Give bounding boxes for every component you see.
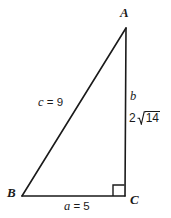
triangle-figure: A B C c = 9 a = 5 b 214 xyxy=(0,0,171,218)
vertex-label-b: B xyxy=(7,186,16,199)
vertex-label-a: A xyxy=(120,6,129,19)
side-c-value: 9 xyxy=(57,96,63,108)
side-a-equals: = xyxy=(70,200,83,212)
radical-expression: 14 xyxy=(136,111,160,125)
vertex-label-c: C xyxy=(130,193,139,206)
side-variable-label-b: b xyxy=(130,90,136,103)
side-length-label-c: c = 9 xyxy=(38,96,63,109)
side-c-equals: = xyxy=(44,96,57,108)
right-angle-marker xyxy=(113,185,125,196)
triangle-drawing xyxy=(0,0,171,218)
side-a-value: 5 xyxy=(83,200,89,212)
side-c-line xyxy=(22,28,126,196)
radical-coefficient: 2 xyxy=(129,111,136,125)
radicand-value: 14 xyxy=(145,111,160,125)
side-length-label-b: 214 xyxy=(129,111,160,125)
side-b-line xyxy=(125,28,126,196)
side-length-label-a: a = 5 xyxy=(64,200,90,213)
